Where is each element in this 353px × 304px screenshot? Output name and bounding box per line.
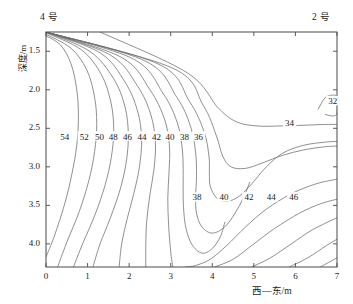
contour-line [46, 32, 128, 267]
y-tick-label: 4.0 [14, 238, 40, 248]
x-tick-label: 3 [163, 271, 179, 281]
contour-value-label: 44 [138, 132, 148, 142]
contour-line [46, 32, 173, 267]
contour-value-label: 40 [219, 192, 229, 202]
plot-frame [46, 32, 337, 267]
y-tick-label: 2.0 [14, 84, 40, 94]
contour-value-label: 46 [289, 192, 299, 202]
y-tick-label: 2.5 [14, 122, 40, 132]
x-tick-label: 0 [38, 271, 54, 281]
contour-line [46, 32, 142, 267]
contour-line [289, 239, 337, 267]
x-tick-label: 2 [121, 271, 137, 281]
contour-value-label: 38 [192, 192, 202, 202]
contour-value-label: 44 [267, 192, 277, 202]
contour-line [46, 34, 97, 267]
plot-canvas: 5452504846444240383634323840424446 [0, 0, 353, 304]
y-tick-label: 1.5 [14, 45, 40, 55]
contour-line [252, 218, 337, 267]
contour-value-label: 50 [95, 132, 105, 142]
contour-line [46, 32, 156, 267]
y-tick-label: 3.0 [14, 161, 40, 171]
contour-line [100, 32, 337, 126]
x-tick-label: 1 [80, 271, 96, 281]
contour-value-label: 40 [165, 132, 175, 142]
contour-value-label: 34 [285, 118, 295, 128]
contour-labels: 5452504846444240383634323840424446 [58, 96, 339, 202]
x-tick-label: 7 [329, 271, 345, 281]
x-tick-label: 5 [246, 271, 262, 281]
x-tick-label: 4 [204, 271, 220, 281]
contour-value-label: 54 [60, 132, 70, 142]
axis-ticks [46, 32, 337, 267]
contour-value-label: 36 [194, 132, 204, 142]
contour-value-label: 38 [180, 132, 190, 142]
contour-value-label: 42 [152, 132, 161, 142]
contour-value-label: 42 [244, 192, 253, 202]
y-tick-label: 3.5 [14, 199, 40, 209]
contour-value-label: 46 [123, 132, 133, 142]
contour-lines [46, 32, 337, 267]
contour-line [320, 258, 337, 267]
contour-line [46, 32, 225, 253]
contour-value-label: 52 [80, 132, 89, 142]
contour-value-label: 48 [109, 132, 119, 142]
x-tick-label: 6 [287, 271, 303, 281]
contour-plot-figure: 4 号 2 号 深度/m 西—东/m 545250484644424038363… [0, 0, 353, 304]
contour-value-label: 32 [328, 96, 337, 106]
contour-line [46, 36, 78, 257]
contour-line [214, 199, 337, 267]
